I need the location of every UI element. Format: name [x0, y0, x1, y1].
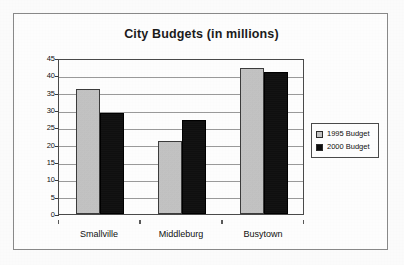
legend-entry-0: 1995 Budget: [316, 128, 374, 140]
x-tick-mark-1: [140, 220, 141, 224]
bar-middleburg-2000: [182, 120, 206, 214]
y-tick-label-30: 30: [29, 107, 55, 115]
y-tick-label-20: 20: [29, 142, 55, 150]
y-tick-label-40: 40: [29, 72, 55, 80]
legend-swatch-2000: [316, 144, 323, 151]
x-tick-mark-end-3: [303, 220, 304, 224]
x-tick-label-smallville: Smallville: [58, 229, 140, 239]
y-tick-label-25: 25: [29, 124, 55, 132]
bar-busytown-1995: [240, 68, 264, 214]
x-tick-label-middleburg: Middleburg: [140, 229, 222, 239]
y-tick-mark-0: [55, 215, 59, 216]
chart-screenshot: City Budgets (in millions) 0510152025303…: [0, 0, 404, 265]
x-tick-mark-end-1: [139, 220, 140, 224]
y-tick-label-10: 10: [29, 176, 55, 184]
y-tick-label-0: 0: [29, 211, 55, 219]
y-tick-label-45: 45: [29, 55, 55, 63]
chart-legend: 1995 Budget2000 Budget: [311, 123, 379, 158]
bar-smallville-2000: [100, 113, 124, 214]
x-tick-label-busytown: Busytown: [222, 229, 304, 239]
x-tick-mark-end-2: [221, 220, 222, 224]
x-tick-mark-0: [58, 220, 59, 224]
plot-area: [58, 59, 304, 215]
legend-label-0: 1995 Budget: [327, 130, 370, 138]
legend-entry-1: 2000 Budget: [316, 141, 374, 153]
figure-frame: City Budgets (in millions) 0510152025303…: [13, 13, 388, 250]
y-tick-label-5: 5: [29, 194, 55, 202]
bar-busytown-2000: [264, 72, 288, 214]
x-tick-mark-2: [222, 220, 223, 224]
bar-smallville-1995: [76, 89, 100, 214]
y-tick-label-35: 35: [29, 90, 55, 98]
chart-title: City Budgets (in millions): [14, 27, 389, 41]
x-axis-tick-labels: SmallvilleMiddleburgBusytown: [58, 220, 304, 242]
legend-swatch-1995: [316, 131, 323, 138]
y-tick-label-15: 15: [29, 159, 55, 167]
legend-label-1: 2000 Budget: [327, 143, 370, 151]
y-axis-tick-labels: 051015202530354045: [22, 59, 55, 215]
bar-middleburg-1995: [158, 141, 182, 214]
